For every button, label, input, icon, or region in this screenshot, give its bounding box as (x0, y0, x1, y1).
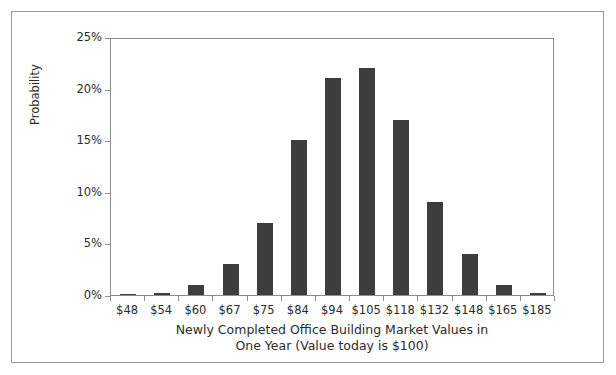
bar (462, 254, 478, 295)
bar (496, 285, 512, 295)
bars-container (111, 39, 553, 295)
bar (188, 285, 204, 295)
bar (223, 264, 239, 295)
x-axis-label-line-1: Newly Completed Office Building Market V… (110, 322, 554, 338)
bar (359, 68, 375, 295)
x-tick-mark (110, 296, 111, 301)
bar (291, 140, 307, 295)
x-tick-mark (281, 296, 282, 301)
bar (257, 223, 273, 295)
x-tick-mark (520, 296, 521, 301)
x-tick-mark (212, 296, 213, 301)
x-tick-mark (247, 296, 248, 301)
x-axis-label: Newly Completed Office Building Market V… (110, 322, 554, 354)
x-tick-mark (383, 296, 384, 301)
bar (530, 293, 546, 295)
x-tick-mark (315, 296, 316, 301)
bar (427, 202, 443, 295)
x-axis-label-line-2: One Year (Value today is $100) (110, 338, 554, 354)
y-tick-label: 10% (56, 187, 102, 199)
y-tick-label: 15% (56, 135, 102, 147)
x-tick-label: $185 (512, 305, 562, 317)
y-tick-label: 25% (56, 32, 102, 44)
x-tick-mark (486, 296, 487, 301)
y-axis-label: Probability (28, 64, 42, 125)
x-tick-mark (554, 296, 555, 301)
bar (393, 120, 409, 295)
chart-figure: Probability 0%5%10%15%20%25% $48$54$60$6… (0, 0, 616, 375)
x-tick-mark (417, 296, 418, 301)
x-tick-mark (178, 296, 179, 301)
bar (154, 293, 170, 295)
x-tick-mark (144, 296, 145, 301)
bar (325, 78, 341, 295)
plot-area (110, 38, 554, 296)
x-tick-mark (349, 296, 350, 301)
x-tick-mark (452, 296, 453, 301)
y-tick-label: 20% (56, 84, 102, 96)
y-tick-label: 0% (56, 290, 102, 302)
y-tick-label: 5% (56, 238, 102, 250)
bar (120, 294, 136, 295)
